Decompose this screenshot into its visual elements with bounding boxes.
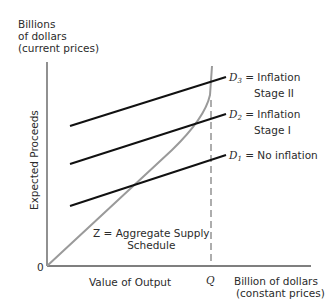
d1-label: D1 = No inflation: [229, 149, 318, 165]
x-axis-title: Value of Output: [89, 276, 171, 288]
x-unit-label: Billion of dollars (constant prices): [234, 275, 325, 299]
q-label: Q: [206, 274, 215, 286]
y-axis-title: Expected Proceeds: [28, 122, 40, 210]
supply-label: Z = Aggregate Supply Schedule: [93, 227, 210, 251]
origin-label: 0: [37, 261, 44, 273]
d1-line: [70, 155, 226, 206]
d3-label: D3 = Inflation Stage II: [229, 71, 300, 99]
d2-label: D2 = Inflation Stage I: [229, 108, 300, 136]
y-unit-label: Billions of dollars (current prices): [18, 18, 99, 54]
d3-line: [70, 77, 226, 126]
d2-line: [70, 114, 226, 164]
